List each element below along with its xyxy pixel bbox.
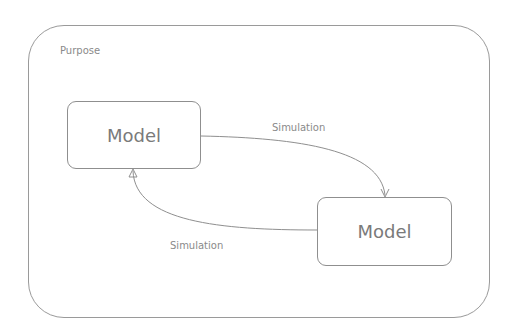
- edge-label-simulation-2: Simulation: [170, 240, 223, 251]
- edge-model1-to-model2: [201, 136, 385, 195]
- edge-label-simulation-1: Simulation: [272, 122, 325, 133]
- model-node-2[interactable]: Model: [317, 197, 452, 266]
- edge-model2-to-model1: [133, 171, 317, 230]
- model-node-2-label: Model: [357, 221, 411, 242]
- model-node-1-label: Model: [107, 125, 161, 146]
- model-node-1[interactable]: Model: [67, 101, 201, 169]
